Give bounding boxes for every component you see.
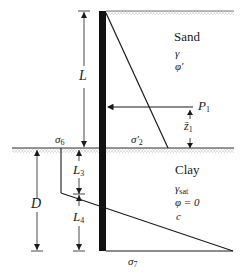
sand-friction-angle-label: φ′ <box>175 61 184 72</box>
p1-sub: 1 <box>206 105 210 114</box>
diagram-canvas <box>0 0 246 275</box>
p1-force-label: P1 <box>198 99 210 114</box>
l3-dimension-label: L3 <box>73 163 84 178</box>
clay-unit-weight-label: γsat <box>175 183 188 196</box>
z1-sub: 1 <box>189 125 193 134</box>
sigma2-label: σ′2 <box>131 134 143 147</box>
sigma2-main: σ′ <box>131 133 139 145</box>
l3-sub: 3 <box>80 169 84 178</box>
sand-unit-weight-label: γ <box>175 48 179 59</box>
dredge-line <box>12 148 234 153</box>
sigma6-label: σ6 <box>55 134 64 147</box>
sigma6-sub: 6 <box>60 138 64 147</box>
clay-layer-label: Clay <box>175 163 200 176</box>
clay-pressure-diagram <box>61 148 233 251</box>
sigma7-sub: 7 <box>133 260 137 269</box>
sand-ground-surface <box>106 11 234 15</box>
l4-dimension-label: L4 <box>73 210 84 225</box>
p1-main: P <box>198 98 206 113</box>
l-dimension-label: L <box>79 69 87 83</box>
d-dimension-label: D <box>31 197 41 211</box>
sand-pressure-line <box>106 13 168 148</box>
clay-cohesion-label: c <box>176 211 181 222</box>
clay-gamma-sub: sat <box>179 187 188 196</box>
sigma7-label: σ7 <box>128 256 137 269</box>
clay-friction-angle-label: φ = 0 <box>175 197 200 208</box>
l4-sub: 4 <box>80 216 84 225</box>
sand-layer-label: Sand <box>174 30 200 43</box>
sheet-pile-wall <box>99 11 106 251</box>
z1-dimension-label: z̄1 <box>184 120 193 134</box>
sigma2-sub: 2 <box>139 138 143 147</box>
